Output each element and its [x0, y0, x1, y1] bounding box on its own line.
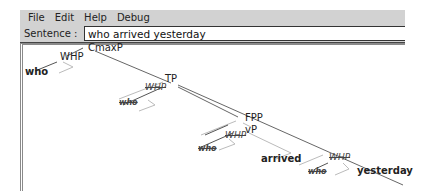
node-whp-top[interactable]: WHP [60, 52, 83, 62]
node-whp-trace-vp[interactable]: WHP [225, 131, 246, 140]
parser-window: File Edit Help Debug Sentence : [20, 10, 405, 191]
sentence-input[interactable] [84, 26, 405, 41]
trace-who-adjunct[interactable]: who [308, 168, 327, 176]
parse-tree-canvas[interactable]: CmaxP WHP who TP WHP who FPP vP WHP who … [20, 43, 405, 191]
tree-edges [23, 45, 405, 191]
node-whp-trace-tp[interactable]: WHP [145, 83, 166, 92]
sentence-label: Sentence : [20, 28, 84, 39]
menu-edit[interactable]: Edit [50, 12, 79, 23]
node-cmaxp[interactable]: CmaxP [88, 43, 123, 53]
word-yesterday[interactable]: yesterday [357, 166, 413, 176]
trace-who-tp[interactable]: who [119, 99, 138, 107]
word-who[interactable]: who [25, 67, 48, 77]
trace-who-vp[interactable]: who [198, 145, 217, 153]
node-tp[interactable]: TP [165, 74, 177, 84]
menu-file[interactable]: File [20, 12, 50, 23]
node-whp-adjunct[interactable]: WHP [329, 153, 350, 162]
sentence-row: Sentence : [20, 25, 405, 43]
node-fpp[interactable]: FPP [245, 113, 263, 123]
node-vp[interactable]: vP [245, 125, 257, 135]
menu-bar: File Edit Help Debug [20, 10, 405, 25]
menu-debug[interactable]: Debug [112, 12, 155, 23]
word-arrived[interactable]: arrived [261, 154, 302, 164]
menu-help[interactable]: Help [79, 12, 112, 23]
